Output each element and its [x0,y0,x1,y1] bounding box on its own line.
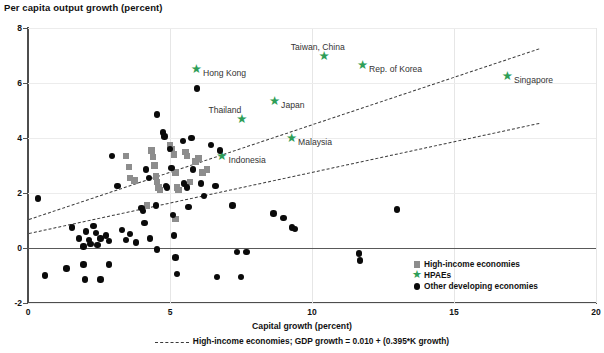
high-income-square-marker [171,151,177,157]
developing-dot-marker [127,231,133,237]
developing-dot-marker [234,249,240,255]
developing-dot-marker [90,223,96,229]
high-income-square-marker [151,162,157,168]
star-marker-icon: ★ [410,270,424,280]
y-tick-mark [23,83,27,84]
developing-dot-marker [82,276,88,282]
developing-dot-marker [280,215,286,221]
developing-dot-marker [238,274,244,280]
developing-dot-marker [109,153,115,159]
gridline-horizontal [28,28,596,29]
legend-label: High-income economies [424,259,520,269]
developing-dot-marker [141,220,147,226]
x-tick-label: 15 [442,307,466,317]
developing-dot-marker [171,232,177,238]
developing-dot-marker [394,206,400,212]
developing-dot-marker [217,147,223,153]
trendline-high-income [29,49,539,220]
developing-dot-marker [106,261,112,267]
x-axis-title: Capital growth (percent) [0,321,604,331]
legend-label: HPAEs [424,270,451,280]
developing-dot-marker [212,183,218,189]
legend-item-hpaes: ★ HPAEs [410,269,538,280]
developing-dot-marker [119,227,125,233]
point-label-hong-kong: Hong Kong [203,68,246,78]
developing-dot-marker [154,246,160,252]
developing-dot-marker [69,224,75,230]
square-marker-icon [410,259,424,269]
point-label-indonesia: Indonesia [229,155,266,165]
developing-dot-marker [106,238,112,244]
developing-dot-marker [174,271,180,277]
developing-dot-marker [83,228,89,234]
x-tick-label: 10 [300,307,324,317]
y-tick-label: 0 [2,243,22,253]
point-label-japan: Japan [281,100,304,110]
developing-dot-marker [87,241,93,247]
developing-dot-marker [184,184,190,190]
developing-dot-marker [35,195,41,201]
developing-dot-marker [229,202,235,208]
developing-dot-marker [356,250,362,256]
developing-dot-marker [172,254,178,260]
y-tick-mark [23,138,27,139]
developing-dot-marker [154,111,160,117]
high-income-square-marker [175,187,181,193]
y-tick-mark [23,303,27,304]
developing-dot-marker [190,166,196,172]
developing-dot-marker [357,257,363,263]
high-income-square-marker [148,147,154,153]
chart-footnote: High-income economies; GDP growth = 0.01… [0,336,604,346]
developing-dot-marker [180,138,186,144]
y-tick-label: 6 [2,78,22,88]
high-income-square-marker [157,187,163,193]
developing-dot-marker [194,85,200,91]
developing-dot-marker [164,184,170,190]
developing-dot-marker [168,165,174,171]
y-tick-label: 8 [2,23,22,33]
gridline-horizontal [28,303,596,304]
high-income-square-marker [144,202,150,208]
developing-dot-marker [143,166,149,172]
high-income-square-marker [150,154,156,160]
x-tick-label: 20 [584,307,604,317]
developing-dot-marker [146,175,152,181]
chart-legend: High-income economies ★ HPAEs Other deve… [410,258,538,291]
high-income-square-marker [123,153,129,159]
chart-root: Per capita output growth (percent) ★Hong… [0,0,604,353]
high-income-square-marker [204,166,210,172]
developing-dot-marker [153,202,159,208]
high-income-square-marker [195,155,201,161]
high-income-square-marker [126,164,132,170]
legend-label: Other developing economies [424,281,538,291]
developing-dot-marker [63,265,69,271]
developing-dot-marker [123,237,129,243]
developing-dot-marker [147,235,153,241]
point-label-singapore: Singapore [514,75,553,85]
y-tick-mark [23,193,27,194]
developing-dot-marker [185,204,191,210]
point-label-thailand: Thailand [208,105,241,115]
developing-dot-marker [76,235,82,241]
footnote-text: High-income economies; GDP growth = 0.01… [193,336,449,346]
developing-dot-marker [214,274,220,280]
point-label-taiwan-china: Taiwan, China [291,42,345,52]
high-income-square-marker [131,177,137,183]
y-tick-mark [23,248,27,249]
y-tick-label: 2 [2,188,22,198]
point-label-rep-of-korea: Rep. of Korea [369,64,422,74]
y-tick-mark [23,28,27,29]
developing-dot-marker [292,226,298,232]
developing-dot-marker [140,208,146,214]
developing-dot-marker [42,272,48,278]
trendline-swatch-icon [155,339,189,345]
developing-dot-marker [201,193,207,199]
x-tick-label: 5 [158,307,182,317]
developing-dot-marker [270,210,276,216]
gridline-vertical [312,28,313,303]
gridline-vertical [596,28,597,303]
point-label-malaysia: Malaysia [298,137,332,147]
developing-dot-marker [161,133,167,139]
high-income-square-marker [184,153,190,159]
developing-dot-marker [188,135,194,141]
